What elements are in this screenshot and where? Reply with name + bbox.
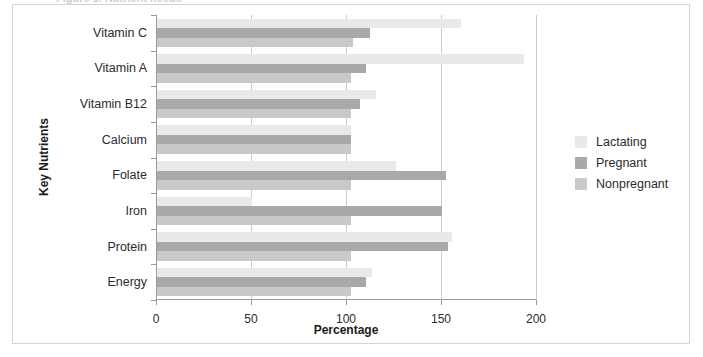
y-tick-mark-3 — [151, 122, 156, 123]
bar-nonpregnant-energy — [157, 287, 351, 297]
bar-nonpregnant-iron — [157, 216, 351, 226]
x-tick-label-150: 150 — [431, 312, 451, 326]
figure-frame: Key Nutrients Percentage 050100150200 Vi… — [12, 4, 690, 344]
gridline-200 — [536, 15, 537, 300]
y-tick-label-folate: Folate — [112, 168, 147, 182]
plot-area: 050100150200 Vitamin CVitamin AVitamin B… — [156, 15, 536, 300]
bar-pregnant-iron — [157, 206, 442, 216]
y-tick-mark-7 — [151, 264, 156, 265]
legend-item-pregnant[interactable]: Pregnant — [575, 152, 668, 173]
legend-label-nonpregnant: Nonpregnant — [596, 177, 668, 191]
bar-lactating-energy — [157, 268, 372, 278]
y-tick-mark-5 — [151, 193, 156, 194]
bar-pregnant-protein — [157, 242, 448, 252]
bar-nonpregnant-vitamin-a — [157, 73, 351, 83]
bar-lactating-protein — [157, 232, 452, 242]
legend-swatch-nonpregnant — [575, 178, 587, 190]
legend-swatch-pregnant — [575, 157, 587, 169]
x-tick-mark-150 — [441, 300, 442, 305]
y-tick-mark-1 — [151, 51, 156, 52]
y-axis-title: Key Nutrients — [37, 118, 51, 196]
y-tick-label-protein: Protein — [107, 240, 147, 254]
chart-legend: LactatingPregnantNonpregnant — [575, 131, 668, 194]
bar-pregnant-vitamin-b12 — [157, 99, 360, 109]
bar-pregnant-energy — [157, 277, 366, 287]
bar-nonpregnant-calcium — [157, 144, 351, 154]
legend-item-nonpregnant[interactable]: Nonpregnant — [575, 173, 668, 194]
y-tick-mark-0 — [151, 15, 156, 16]
x-tick-mark-0 — [156, 300, 157, 305]
bar-lactating-vitamin-c — [157, 19, 461, 29]
bar-lactating-folate — [157, 161, 396, 171]
x-tick-label-100: 100 — [336, 312, 356, 326]
y-tick-mark-end — [151, 300, 156, 301]
y-tick-mark-4 — [151, 158, 156, 159]
bar-lactating-vitamin-a — [157, 54, 524, 64]
bar-lactating-vitamin-b12 — [157, 90, 376, 100]
x-tick-mark-200 — [536, 300, 537, 305]
y-tick-label-iron: Iron — [125, 204, 147, 218]
bar-nonpregnant-folate — [157, 180, 351, 190]
y-tick-mark-6 — [151, 229, 156, 230]
bar-nonpregnant-vitamin-b12 — [157, 109, 351, 119]
bar-pregnant-vitamin-c — [157, 28, 370, 38]
bar-nonpregnant-protein — [157, 251, 351, 261]
y-tick-label-vitamin-c: Vitamin C — [93, 26, 147, 40]
y-tick-label-vitamin-b12: Vitamin B12 — [80, 97, 147, 111]
y-tick-label-vitamin-a: Vitamin A — [94, 61, 147, 75]
bar-pregnant-calcium — [157, 135, 351, 145]
legend-label-lactating: Lactating — [596, 135, 647, 149]
x-tick-mark-100 — [346, 300, 347, 305]
y-tick-label-calcium: Calcium — [102, 133, 147, 147]
bar-pregnant-vitamin-a — [157, 64, 366, 74]
y-tick-label-energy: Energy — [107, 275, 147, 289]
bar-lactating-calcium — [157, 125, 351, 135]
bar-lactating-iron — [157, 197, 252, 207]
legend-item-lactating[interactable]: Lactating — [575, 131, 668, 152]
legend-label-pregnant: Pregnant — [596, 156, 647, 170]
x-tick-label-0: 0 — [153, 312, 160, 326]
x-tick-label-50: 50 — [244, 312, 257, 326]
y-tick-mark-2 — [151, 86, 156, 87]
bar-nonpregnant-vitamin-c — [157, 38, 353, 48]
legend-swatch-lactating — [575, 136, 587, 148]
bar-pregnant-folate — [157, 171, 446, 181]
x-tick-label-200: 200 — [526, 312, 546, 326]
x-tick-mark-50 — [251, 300, 252, 305]
